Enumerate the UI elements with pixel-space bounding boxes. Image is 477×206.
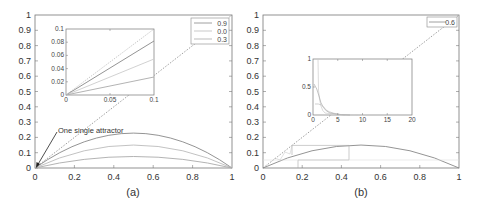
panel-a-curve-0.9 [35, 133, 232, 168]
svg-text:0.4: 0.4 [108, 172, 121, 182]
panel-a-annotation: One single attractor [58, 126, 124, 135]
svg-text:0.6: 0.6 [18, 71, 31, 81]
svg-text:0.5: 0.5 [246, 87, 259, 97]
panel-b-inset: 0 0.5 1 0 5 10 15 20 [302, 55, 416, 123]
svg-text:0: 0 [254, 163, 259, 173]
svg-text:0.05: 0.05 [104, 96, 117, 103]
panel-b-y-tick-labels: 0 0.1 0.2 0.3 0.4 0.5 0.6 0.7 0.8 0.9 1 [246, 10, 259, 173]
svg-text:0.8: 0.8 [414, 172, 427, 182]
svg-text:0.8: 0.8 [18, 41, 31, 51]
svg-text:0.0: 0.0 [217, 28, 227, 35]
panel-a-y-tick-labels: 0 0.1 0.2 0.3 0.4 0.5 0.6 0.7 0.8 0.9 1 [18, 10, 31, 173]
svg-text:0.8: 0.8 [246, 41, 259, 51]
svg-text:0.9: 0.9 [246, 25, 259, 35]
svg-text:0.3: 0.3 [246, 117, 259, 127]
panel-a-caption: (a) [126, 186, 139, 198]
svg-text:0.1: 0.1 [246, 148, 259, 158]
panel-a-annotation-arrow [37, 132, 57, 166]
svg-text:5: 5 [336, 116, 340, 123]
svg-text:0.5: 0.5 [302, 83, 311, 90]
svg-text:0.08: 0.08 [51, 38, 64, 45]
svg-text:0.3: 0.3 [217, 36, 227, 43]
svg-text:0: 0 [32, 172, 37, 182]
svg-text:1: 1 [254, 10, 259, 20]
panel-b: 0 0.1 0.2 0.3 0.4 0.5 0.6 0.7 0.8 0.9 1 … [246, 10, 461, 198]
svg-text:20: 20 [408, 116, 416, 123]
svg-text:1: 1 [456, 172, 461, 182]
panel-a-x-tick-labels: 0 0.2 0.4 0.6 0.8 1 [32, 172, 234, 182]
svg-text:0.04: 0.04 [51, 65, 64, 72]
panel-b-legend: 0.6 [427, 17, 457, 27]
svg-text:0.06: 0.06 [51, 51, 64, 58]
svg-text:0.8: 0.8 [186, 172, 199, 182]
svg-text:15: 15 [384, 116, 392, 123]
svg-text:0.7: 0.7 [246, 56, 259, 66]
panel-b-x-tick-labels: 0 0.2 0.4 0.6 0.8 1 [260, 172, 461, 182]
svg-text:0.6: 0.6 [445, 19, 455, 26]
svg-text:0.2: 0.2 [246, 132, 259, 142]
svg-text:0.1: 0.1 [149, 96, 158, 103]
svg-text:0.3: 0.3 [18, 117, 31, 127]
svg-text:0.7: 0.7 [18, 56, 31, 66]
svg-text:1: 1 [26, 10, 31, 20]
svg-text:0: 0 [311, 116, 315, 123]
svg-text:0.4: 0.4 [246, 102, 259, 112]
panel-a-curve-0.3 [35, 157, 232, 169]
panel-a-inset: 0 0.02 0.04 0.06 0.08 0.1 0 0.05 0.1 [51, 25, 159, 103]
svg-text:0.1: 0.1 [18, 148, 31, 158]
svg-text:1: 1 [229, 172, 234, 182]
panel-a: 0 0.1 0.2 0.3 0.4 0.5 0.6 0.7 0.8 0.9 1 … [18, 10, 234, 198]
svg-text:0.9: 0.9 [18, 25, 31, 35]
svg-text:0.4: 0.4 [335, 172, 348, 182]
svg-text:0.4: 0.4 [18, 102, 31, 112]
svg-text:0.2: 0.2 [68, 172, 81, 182]
figure: 0 0.1 0.2 0.3 0.4 0.5 0.6 0.7 0.8 0.9 1 … [0, 0, 477, 206]
svg-text:0: 0 [26, 163, 31, 173]
svg-text:0.1: 0.1 [55, 25, 64, 32]
svg-text:0: 0 [64, 96, 68, 103]
svg-text:0.02: 0.02 [51, 78, 64, 85]
panel-b-curve-0.6 [263, 145, 459, 168]
svg-text:0.6: 0.6 [374, 172, 387, 182]
svg-text:0.2: 0.2 [18, 132, 31, 142]
svg-text:1: 1 [307, 55, 311, 62]
svg-text:0.5: 0.5 [18, 87, 31, 97]
svg-text:0: 0 [260, 172, 265, 182]
panel-a-legend: 0.9 0.0 0.3 [191, 18, 229, 44]
svg-text:0.9: 0.9 [217, 20, 227, 27]
panel-b-caption: (b) [354, 186, 367, 198]
svg-text:0.6: 0.6 [147, 172, 160, 182]
svg-text:0.6: 0.6 [246, 71, 259, 81]
svg-text:0.2: 0.2 [296, 172, 309, 182]
svg-text:10: 10 [359, 116, 367, 123]
